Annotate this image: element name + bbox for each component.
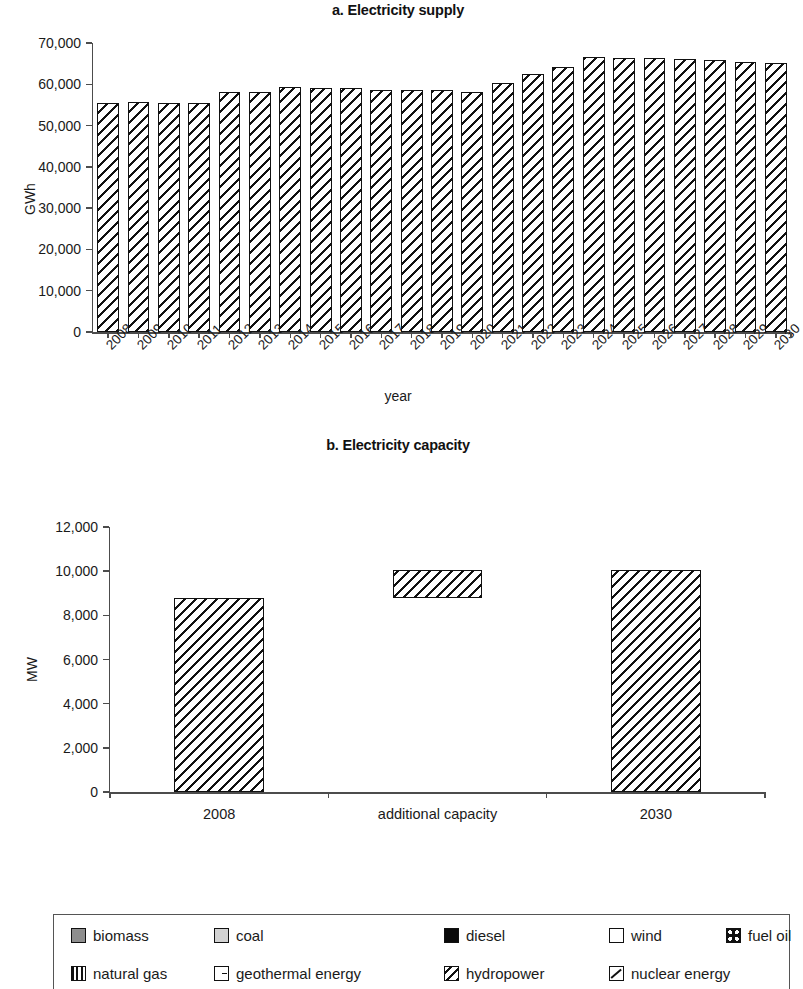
chart-a-y-tick <box>86 207 92 209</box>
legend-item-label: coal <box>236 927 264 944</box>
chart-b-x-category-label: additional capacity <box>378 806 497 822</box>
chart-b-y-axis-label: MW <box>24 657 40 682</box>
chart-b-x-tick <box>328 792 330 798</box>
nuclear-energy-swatch-icon <box>609 966 624 981</box>
legend-item-label: nuclear energy <box>631 965 730 982</box>
legend-item-label: geothermal energy <box>236 965 361 982</box>
chart-b-bar <box>611 570 701 792</box>
chart-a-y-tick-label: 10,000 <box>38 283 81 299</box>
chart-a-bar <box>613 58 635 332</box>
natural-gas-swatch-icon <box>71 966 86 981</box>
geothermal-energy-swatch-icon <box>214 966 229 981</box>
chart-a-bar <box>279 87 301 332</box>
chart-b-y-tick-label: 2,000 <box>63 740 98 756</box>
chart-b-y-tick <box>103 747 109 749</box>
chart-a-y-tick <box>86 125 92 127</box>
chart-b-y-tick <box>103 615 109 617</box>
legend-item-label: hydropower <box>466 965 544 982</box>
chart-a-y-tick <box>86 331 92 333</box>
chart-a-y-tick <box>86 249 92 251</box>
chart-b-y-tick-label: 0 <box>90 784 98 800</box>
chart-b-electricity-capacity: b. Electricity capacity MW 02,0004,0006,… <box>0 437 796 907</box>
chart-b-x-category-label: 2030 <box>640 806 672 822</box>
chart-b-y-tick <box>103 570 109 572</box>
chart-a-bar <box>401 90 423 332</box>
chart-a-y-tick <box>86 42 92 44</box>
chart-a-bar <box>431 90 453 332</box>
legend-item-hydropower: hydropower <box>444 965 544 982</box>
chart-b-y-tick-label: 10,000 <box>55 563 98 579</box>
chart-b-y-tick-label: 12,000 <box>55 519 98 535</box>
chart-a-y-axis <box>92 43 94 333</box>
legend-item-label: wind <box>631 927 662 944</box>
chart-b-bar <box>393 570 483 598</box>
hydropower-swatch-icon <box>444 966 459 981</box>
chart-a-y-axis-label: GWh <box>22 183 38 215</box>
chart-b-y-tick-label: 6,000 <box>63 652 98 668</box>
chart-b-title: b. Electricity capacity <box>0 437 796 453</box>
chart-b-y-axis <box>109 527 111 793</box>
chart-b-y-tick <box>103 659 109 661</box>
chart-a-bar <box>583 57 605 332</box>
chart-a-y-tick-label: 50,000 <box>38 118 81 134</box>
chart-b-bar <box>174 598 264 792</box>
legend-item-label: fuel oil <box>748 927 791 944</box>
chart-a-x-tick <box>790 332 792 338</box>
chart-a-bar <box>340 88 362 332</box>
chart-a-bar <box>765 63 787 332</box>
chart-b-x-tick <box>764 792 766 798</box>
legend-item-coal: coal <box>214 927 264 944</box>
legend-item-wind: wind <box>609 927 662 944</box>
chart-a-bar <box>461 92 483 332</box>
chart-b-x-category-label: 2008 <box>203 806 235 822</box>
chart-b-y-tick <box>103 526 109 528</box>
coal-swatch-icon <box>214 928 229 943</box>
legend: biomasscoaldieselwindfuel oilnatural gas… <box>53 914 790 989</box>
chart-a-y-tick-label: 60,000 <box>38 76 81 92</box>
chart-a-bar <box>674 59 696 332</box>
chart-a-bar <box>128 102 150 332</box>
legend-item-fuel-oil: fuel oil <box>726 927 791 944</box>
chart-a-plot-area: 010,00020,00030,00040,00050,00060,00070,… <box>93 43 791 332</box>
legend-item-label: diesel <box>466 927 505 944</box>
chart-a-y-tick <box>86 290 92 292</box>
chart-a-x-axis-label: year <box>0 388 796 404</box>
chart-b-x-tick <box>546 792 548 798</box>
chart-a-y-tick-label: 40,000 <box>38 159 81 175</box>
chart-a-bar <box>249 92 271 332</box>
chart-a-bar <box>644 58 666 332</box>
chart-a-y-tick-label: 70,000 <box>38 35 81 51</box>
legend-item-biomass: biomass <box>71 927 149 944</box>
chart-b-y-tick-label: 4,000 <box>63 696 98 712</box>
chart-a-bar <box>522 74 544 332</box>
legend-item-natural-gas: natural gas <box>71 965 167 982</box>
chart-b-x-tick <box>109 792 111 798</box>
chart-a-y-tick-label: 0 <box>73 324 81 340</box>
chart-a-bar <box>492 83 514 332</box>
chart-a-bar <box>158 103 180 332</box>
chart-a-bar <box>370 90 392 332</box>
legend-row: biomasscoaldieselwindfuel oil <box>54 919 789 956</box>
diesel-swatch-icon <box>444 928 459 943</box>
legend-row: natural gasgeothermal energyhydropowernu… <box>54 957 789 989</box>
chart-a-y-tick <box>86 84 92 86</box>
chart-a-bar <box>704 60 726 332</box>
wind-swatch-icon <box>609 928 624 943</box>
chart-b-y-tick <box>103 791 109 793</box>
chart-a-bar <box>310 88 332 332</box>
chart-a-y-tick-label: 30,000 <box>38 200 81 216</box>
chart-a-electricity-supply: a. Electricity supply GWh 010,00020,0003… <box>0 0 796 400</box>
chart-a-title: a. Electricity supply <box>0 2 796 18</box>
chart-a-bar <box>219 92 241 332</box>
chart-b-y-tick-label: 8,000 <box>63 607 98 623</box>
chart-a-bar <box>97 103 119 332</box>
legend-item-label: biomass <box>93 927 149 944</box>
chart-b-y-tick <box>103 703 109 705</box>
legend-item-nuclear-energy: nuclear energy <box>609 965 730 982</box>
chart-a-bar <box>188 103 210 332</box>
biomass-swatch-icon <box>71 928 86 943</box>
chart-b-plot-area: 02,0004,0006,0008,00010,00012,0002008add… <box>110 527 765 792</box>
legend-item-label: natural gas <box>93 965 167 982</box>
chart-b-x-axis <box>109 792 766 794</box>
legend-item-geothermal-energy: geothermal energy <box>214 965 361 982</box>
